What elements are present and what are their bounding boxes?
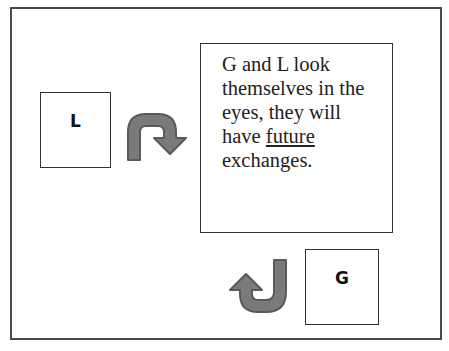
box-g-label: G [306, 268, 378, 288]
box-l-label: L [41, 111, 110, 131]
box-g: G [305, 249, 379, 325]
statement-line-5: exchanges. [222, 148, 384, 172]
underlined-word-future: future [266, 125, 315, 147]
statement-line-1: G and L look [222, 52, 384, 76]
curved-arrow-left-up-icon [226, 256, 292, 316]
statement-line-3: eyes, they will [222, 100, 384, 124]
box-l: L [40, 92, 111, 168]
statement-line-4-prefix: have [222, 125, 266, 147]
curved-arrow-right-down-icon [122, 108, 192, 162]
statement-line-2: themselves in the [222, 76, 384, 100]
statement-line-4: have future [222, 124, 384, 148]
statement-textbox: G and L look themselves in the eyes, the… [200, 43, 393, 233]
